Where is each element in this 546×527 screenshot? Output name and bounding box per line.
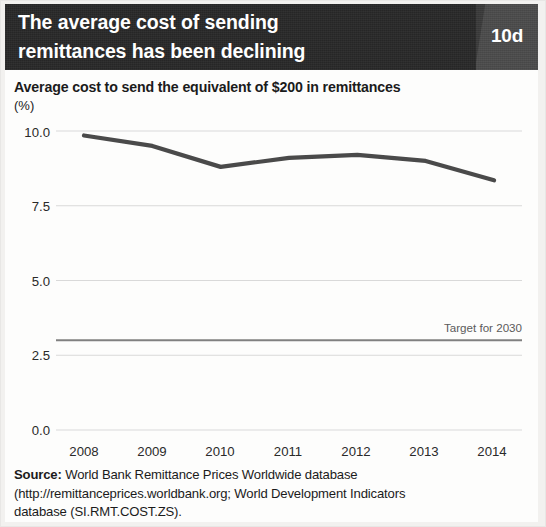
source-line-3: database (SI.RMT.COST.ZS). bbox=[14, 503, 522, 522]
source-note: Source: World Bank Remittance Prices Wor… bbox=[14, 466, 522, 522]
figure-number-badge: 10d bbox=[476, 4, 538, 70]
y-tick-label-3: 2.5 bbox=[4, 349, 50, 362]
source-line-1: Source: World Bank Remittance Prices Wor… bbox=[14, 466, 522, 485]
y-tick-label-4: 0.0 bbox=[4, 424, 50, 437]
x-tick-label-2008: 2008 bbox=[54, 445, 114, 458]
x-tick-label-2013: 2013 bbox=[394, 445, 454, 458]
source-line-2: (http://remittanceprices.worldbank.org; … bbox=[14, 485, 522, 504]
x-tick-label-2011: 2011 bbox=[258, 445, 318, 458]
y-tick-label-0: 10.0 bbox=[4, 126, 50, 139]
y-tick-label-2: 5.0 bbox=[4, 275, 50, 288]
figure-number-text: 10d bbox=[476, 25, 538, 47]
figure-panel: The average cost of sending remittances … bbox=[0, 0, 546, 527]
source-text-1: World Bank Remittance Prices Worldwide d… bbox=[62, 467, 358, 482]
title-line-2: remittances has been declining bbox=[18, 37, 458, 66]
target-line-annotation: Target for 2030 bbox=[444, 322, 522, 334]
y-tick-label-1: 7.5 bbox=[4, 200, 50, 213]
page-title: The average cost of sending remittances … bbox=[18, 8, 458, 66]
chart-title: Average cost to send the equivalent of $… bbox=[14, 79, 514, 96]
x-tick-label-2010: 2010 bbox=[190, 445, 250, 458]
y-axis-unit-label: (%) bbox=[14, 98, 34, 114]
title-line-1: The average cost of sending bbox=[18, 8, 458, 37]
x-tick-label-2009: 2009 bbox=[122, 445, 182, 458]
source-label: Source: bbox=[14, 467, 62, 482]
x-tick-label-2014: 2014 bbox=[462, 445, 522, 458]
x-tick-label-2012: 2012 bbox=[326, 445, 386, 458]
figure-header: The average cost of sending remittances … bbox=[5, 4, 538, 70]
